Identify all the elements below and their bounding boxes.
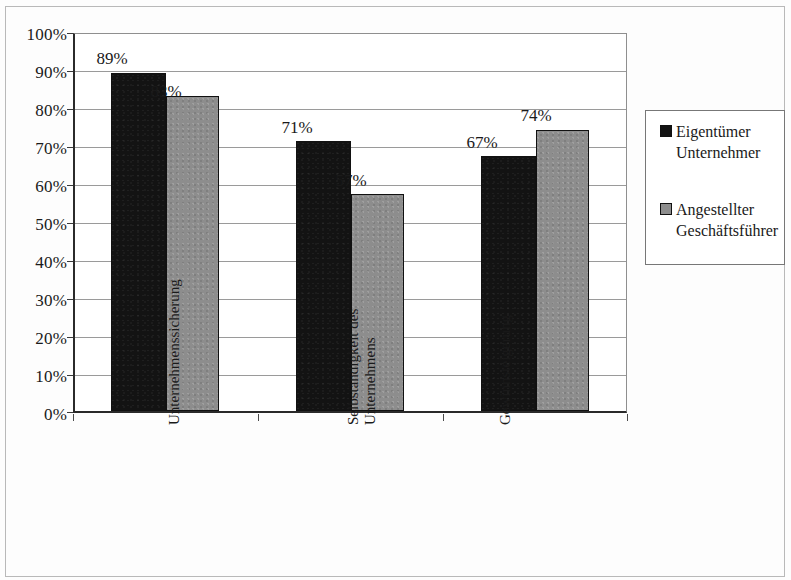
x-axis-label-gewinnsteigerung-line1: Gewinnsteigerung [497, 315, 513, 425]
y-axis-label-50: 50% [5, 216, 67, 233]
x-tick-mark-2 [443, 414, 444, 421]
x-axis-label-selbstaendigkeit: Selbständigkeit des Unternehmens [345, 309, 379, 425]
bar-value-83: 83% [138, 83, 194, 100]
chart-figure: 100% 90% 80% 70% 60% 50% 40% 30% 20% 10%… [0, 0, 791, 580]
bar-gewinnsteigerung-angestellter[interactable] [536, 130, 589, 411]
x-axis-label-selbstaendigkeit-line2: Unternehmens [362, 309, 379, 425]
y-axis-label-90: 90% [5, 64, 67, 81]
x-tick-mark-0 [73, 414, 74, 421]
y-axis-label-0: 0% [5, 406, 67, 423]
x-tick-mark-3 [627, 414, 628, 421]
x-axis-label-gewinnsteigerung: Gewinnsteigerung [497, 315, 514, 425]
y-axis-label-10: 10% [5, 368, 67, 385]
legend-label-angestellter: Angestellter Geschäftsführer [676, 199, 778, 241]
x-axis-label-unternehmenssicherung-line1: Unternehmenssicherung [166, 279, 182, 425]
x-axis-label-unternehmenssicherung: Unternehmenssicherung [166, 279, 183, 425]
x-tick-mark-1 [258, 414, 259, 421]
bar-value-67: 67% [454, 134, 510, 151]
bar-value-89: 89% [84, 50, 140, 67]
y-axis-label-30: 30% [5, 292, 67, 309]
bar-value-57: 57% [323, 172, 379, 189]
bar-value-71: 71% [269, 119, 325, 136]
y-axis-label-40: 40% [5, 254, 67, 271]
y-axis-label-20: 20% [5, 330, 67, 347]
x-axis-label-selbstaendigkeit-line1: Selbständigkeit des [345, 309, 361, 425]
legend-entry-eigentuemer-unternehmer[interactable]: Eigentümer Unternehmer [660, 121, 760, 163]
legend-swatch-icon-angestellter [660, 203, 672, 215]
bar-value-74: 74% [508, 107, 564, 124]
y-axis-label-100: 100% [5, 26, 67, 43]
legend-label-eigentuemer: Eigentümer Unternehmer [676, 121, 760, 163]
legend-entry-angestellter-geschaeftsfuehrer[interactable]: Angestellter Geschäftsführer [660, 199, 778, 241]
legend: Eigentümer Unternehmer Angestellter Gesc… [645, 110, 785, 265]
y-axis-label-70: 70% [5, 140, 67, 157]
y-axis-label-60: 60% [5, 178, 67, 195]
legend-swatch-icon-eigentuemer [660, 125, 672, 137]
bar-unternehmenssicherung-eigentuemer[interactable] [111, 73, 166, 411]
y-axis-label-80: 80% [5, 102, 67, 119]
